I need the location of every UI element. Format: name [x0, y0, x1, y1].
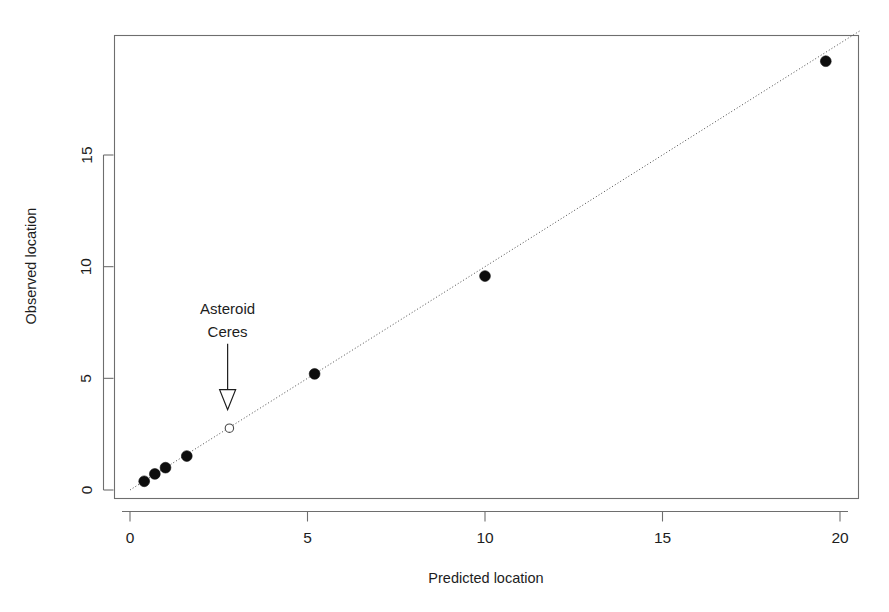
data-point [181, 451, 192, 462]
data-point [160, 462, 171, 473]
plot-background [0, 0, 889, 612]
y-tick-label: 0 [78, 485, 95, 494]
x-tick-label: 15 [654, 529, 671, 546]
data-point [820, 56, 831, 67]
annotation-text-line-1: Asteroid [200, 300, 255, 317]
data-point-open [225, 424, 233, 432]
x-tick-label: 5 [303, 529, 312, 546]
x-axis-title: Predicted location [428, 570, 543, 586]
y-axis-title: Observed location [23, 208, 39, 325]
data-point [139, 476, 150, 487]
x-tick-label: 0 [126, 529, 135, 546]
figure-container: Asteroid Ceres 05101520 Predicted locati… [0, 0, 889, 612]
y-tick-label: 5 [78, 374, 95, 383]
x-tick-label: 10 [476, 529, 494, 546]
x-tick-label: 20 [831, 529, 849, 546]
data-point [309, 368, 320, 379]
annotation-text-line-2: Ceres [208, 323, 248, 340]
y-tick-label: 15 [78, 146, 95, 163]
data-point [480, 271, 491, 282]
scatter-plot-svg: Asteroid Ceres 05101520 Predicted locati… [0, 0, 889, 612]
y-tick-label: 10 [78, 258, 95, 276]
data-point [149, 469, 160, 480]
